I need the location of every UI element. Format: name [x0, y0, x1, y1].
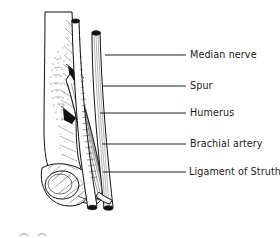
- label-ligament-of-struthers: Ligament of Struthers: [103, 166, 280, 177]
- label-group: Median nerve Spur Humerus Brachial arter…: [100, 49, 280, 177]
- label-text-brachial-artery: Brachial artery: [190, 138, 263, 149]
- anatomical-illustration: Median nerve Spur Humerus Brachial arter…: [0, 0, 280, 238]
- cropped-caption-remnant: [20, 234, 46, 236]
- label-spur: Spur: [103, 80, 213, 91]
- label-text-median-nerve: Median nerve: [190, 49, 257, 60]
- label-text-spur: Spur: [190, 80, 213, 91]
- label-brachial-artery: Brachial artery: [102, 138, 263, 149]
- figure-panel: Median nerve Spur Humerus Brachial arter…: [0, 0, 280, 238]
- label-humerus: Humerus: [100, 107, 234, 118]
- label-text-ligament-of-struthers: Ligament of Struthers: [189, 166, 280, 177]
- label-median-nerve: Median nerve: [105, 49, 257, 60]
- label-text-humerus: Humerus: [190, 107, 234, 118]
